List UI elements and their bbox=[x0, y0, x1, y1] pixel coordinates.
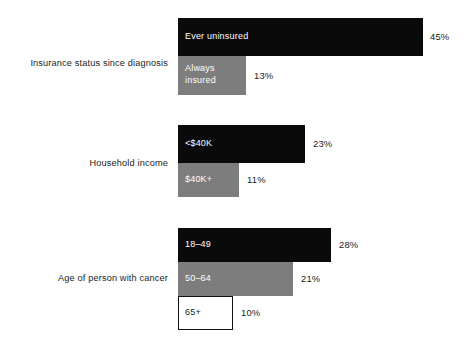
bar-label-65-plus: 65+ bbox=[185, 307, 201, 319]
category-label-insurance-status: Insurance status since diagnosis bbox=[0, 58, 168, 68]
bar-label-always-insured-line1: Always bbox=[185, 63, 215, 73]
bar-value-65-plus: 10% bbox=[241, 307, 260, 318]
bar-value-always-insured: 13% bbox=[254, 70, 273, 81]
bar-value-50-64: 21% bbox=[301, 273, 320, 284]
bar-label-always-insured-line2: insured bbox=[185, 75, 216, 85]
bar-value-under-40k: 23% bbox=[313, 138, 332, 149]
bar-label-under-40k: <$40K bbox=[185, 138, 212, 150]
bar-value-ever-uninsured: 45% bbox=[430, 31, 449, 42]
bar-label-always-insured: Alwaysinsured bbox=[185, 63, 216, 86]
bar-row-50-64: 50–64 21% bbox=[178, 262, 293, 296]
bar-value-40k-plus: 11% bbox=[247, 174, 266, 185]
bar-row-40k-plus: $40K+ 11% bbox=[178, 163, 239, 197]
category-label-household-income: Household income bbox=[0, 158, 168, 168]
bar-row-65-plus: 65+ 10% bbox=[178, 296, 233, 330]
bar-label-40k-plus: $40K+ bbox=[185, 174, 212, 186]
bar-label-18-49: 18–49 bbox=[185, 239, 211, 251]
grouped-bar-chart: Insurance status since diagnosis Ever un… bbox=[0, 0, 467, 343]
bar-value-18-49: 28% bbox=[339, 239, 358, 250]
category-label-age-of-person: Age of person with cancer bbox=[0, 273, 168, 283]
bar-row-under-40k: <$40K 23% bbox=[178, 125, 305, 163]
bar-row-ever-uninsured: Ever uninsured 45% bbox=[178, 18, 423, 56]
bar-label-ever-uninsured: Ever uninsured bbox=[185, 31, 248, 43]
bar-row-18-49: 18–49 28% bbox=[178, 228, 331, 262]
bar-row-always-insured: Alwaysinsured 13% bbox=[178, 56, 246, 95]
bar-label-50-64: 50–64 bbox=[185, 273, 211, 285]
